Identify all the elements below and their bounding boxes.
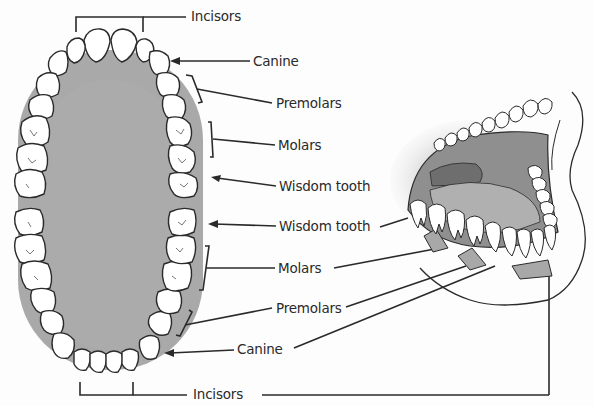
upper-premolar-left xyxy=(36,73,59,98)
upper-molar-right xyxy=(166,117,191,147)
label-upper-canine: Canine xyxy=(252,55,300,69)
upper-molar-left xyxy=(21,116,50,147)
upper-premolar-right xyxy=(162,95,185,120)
upper-canine-right xyxy=(149,51,169,76)
upper-molar-right xyxy=(168,145,195,173)
lower-incisor xyxy=(106,351,123,372)
label-lower-premolars: Premolars xyxy=(275,302,343,316)
lower-canine-left xyxy=(52,333,74,359)
lower-molar-right xyxy=(166,235,195,264)
side-view-mouth xyxy=(390,92,585,305)
label-lower-canine: Canine xyxy=(236,343,284,357)
upper-premolar-right xyxy=(156,73,179,98)
lower-molar-left xyxy=(21,261,52,291)
lower-incisor xyxy=(122,349,139,370)
label-lower-incisors: Incisors xyxy=(192,388,244,402)
lower-premolar-right xyxy=(156,289,181,314)
label-upper-premolars: Premolars xyxy=(275,97,343,111)
lower-wisdom-right xyxy=(168,208,196,235)
label-lower-wisdom: Wisdom tooth xyxy=(278,220,371,234)
label-upper-incisors: Incisors xyxy=(190,10,242,24)
label-upper-molars: Molars xyxy=(277,139,322,153)
lower-incisor xyxy=(74,349,91,370)
lower-molar-left xyxy=(15,234,46,263)
lower-wisdom-left xyxy=(15,208,44,235)
teeth-diagram: Incisors Canine Premolars Molars Wisdom … xyxy=(0,0,594,405)
upper-canine-left xyxy=(48,51,68,76)
lower-molar-right xyxy=(162,261,191,291)
lower-incisor xyxy=(90,351,107,372)
upper-wisdom-left xyxy=(15,169,46,197)
lower-canine-right xyxy=(139,335,159,359)
upper-wisdom-right xyxy=(169,173,198,198)
label-upper-wisdom: Wisdom tooth xyxy=(278,180,371,194)
label-lower-molars: Molars xyxy=(277,262,322,276)
